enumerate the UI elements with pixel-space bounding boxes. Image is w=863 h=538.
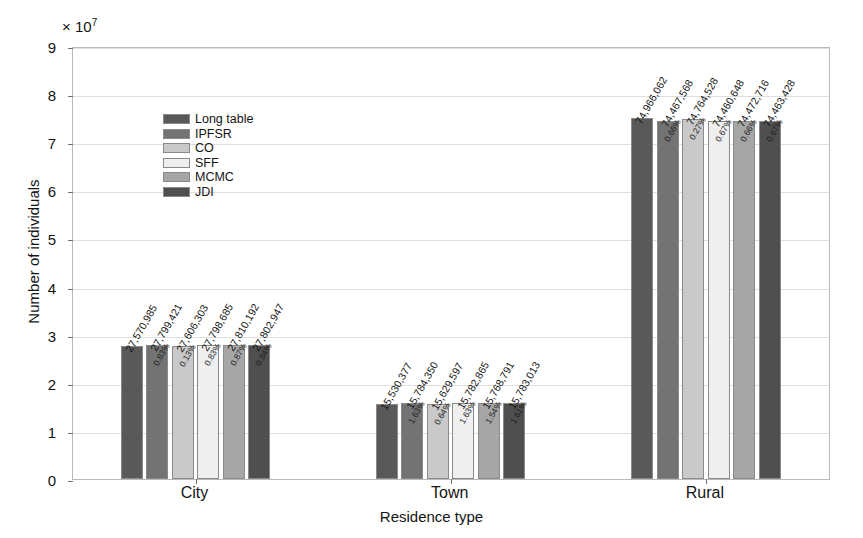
bar: 0.67% — [708, 121, 730, 479]
legend: Long tableIPFSRCOSFFMCMCJDI — [161, 110, 259, 201]
legend-swatch-icon — [163, 187, 190, 197]
y-tick-mark — [68, 240, 73, 241]
y-tick-label: 3 — [48, 327, 56, 344]
legend-label: CO — [195, 141, 214, 155]
y-tick-label: 0 — [48, 472, 56, 489]
y-tick-mark — [68, 337, 73, 338]
legend-label: IPFSR — [195, 127, 232, 141]
bar: 0.87% — [223, 345, 245, 479]
y-axis-exponent-base: × 10 — [62, 18, 92, 35]
y-tick-label: 7 — [48, 135, 56, 152]
y-tick-label: 4 — [48, 279, 56, 296]
legend-item-sff[interactable]: SFF — [163, 156, 253, 171]
bar: 0.83% — [197, 345, 219, 479]
gridline — [73, 48, 829, 49]
y-tick-label: 9 — [48, 39, 56, 56]
legend-label: MCMC — [195, 170, 234, 184]
bar: 1.61% — [503, 403, 525, 479]
legend-swatch-icon — [163, 129, 190, 139]
y-axis-exponent: × 107 — [62, 17, 97, 35]
legend-swatch-icon — [163, 158, 190, 168]
x-group-label-city: City — [181, 484, 209, 502]
y-axis-tick-labels: 0123456789 — [0, 47, 64, 480]
legend-label: Long table — [195, 112, 253, 126]
bar: 0.84% — [248, 345, 270, 479]
x-axis-title: Residence type — [0, 508, 863, 525]
legend-swatch-icon — [163, 114, 190, 124]
bar: 1.54% — [478, 403, 500, 479]
x-group-label-rural: Rural — [686, 484, 724, 502]
bar: 0.83% — [146, 345, 168, 479]
legend-item-ipfsr[interactable]: IPFSR — [163, 127, 253, 142]
legend-swatch-icon — [163, 172, 190, 182]
y-tick-mark — [68, 144, 73, 145]
legend-item-jdi[interactable]: JDI — [163, 185, 253, 200]
x-group-label-town: Town — [431, 484, 468, 502]
y-tick-mark — [68, 481, 73, 482]
legend-swatch-icon — [163, 143, 190, 153]
gridline — [73, 96, 829, 97]
y-tick-label: 8 — [48, 87, 56, 104]
y-axis-exponent-power: 7 — [92, 17, 98, 28]
bar: 0.67% — [759, 121, 781, 479]
bar: 0.64% — [427, 404, 449, 479]
legend-item-long-table[interactable]: Long table — [163, 112, 253, 127]
y-tick-label: 6 — [48, 183, 56, 200]
plot-area: 27,570,9850.83%27,799,4210.13%27,606,303… — [72, 47, 830, 480]
bar: 1.63% — [452, 403, 474, 479]
y-tick-mark — [68, 96, 73, 97]
y-tick-label: 2 — [48, 375, 56, 392]
legend-label: JDI — [195, 185, 214, 199]
y-tick-mark — [68, 192, 73, 193]
bar — [376, 404, 398, 479]
bar — [121, 346, 143, 479]
bar: 0.66% — [657, 121, 679, 479]
bar: 1.63% — [401, 403, 423, 479]
y-tick-mark — [68, 48, 73, 49]
y-tick-mark — [68, 385, 73, 386]
legend-label: SFF — [195, 156, 219, 170]
legend-item-mcmc[interactable]: MCMC — [163, 170, 253, 185]
bar-chart-figure: × 107 Number of individuals 0123456789 2… — [0, 0, 863, 538]
legend-item-co[interactable]: CO — [163, 141, 253, 156]
y-tick-mark — [68, 289, 73, 290]
bar: 0.27% — [682, 119, 704, 479]
y-tick-mark — [68, 433, 73, 434]
bar: 0.13% — [172, 346, 194, 479]
bar — [631, 118, 653, 479]
bar: 0.66% — [733, 121, 755, 479]
y-tick-label: 5 — [48, 231, 56, 248]
y-tick-label: 1 — [48, 423, 56, 440]
